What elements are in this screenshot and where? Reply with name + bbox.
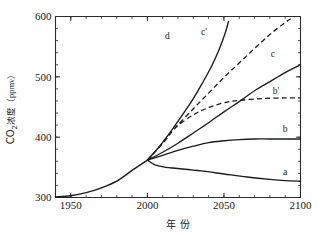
y-tick-label: 600 [35, 10, 52, 22]
y-axis-tick-labels: 300400500600 [35, 10, 52, 203]
curve-d [147, 21, 228, 160]
y-axis-title: CO2浓度（ppmv） [5, 70, 19, 145]
curve-label-c-prime: c' [201, 27, 207, 37]
y-axis-title-rest: 浓度（ppmv） [6, 70, 16, 125]
x-tick-label: 2100 [290, 199, 313, 211]
y-axis-title-group: CO2浓度（ppmv） [5, 70, 19, 145]
axis-frame-lines [56, 17, 301, 198]
curve-historical [56, 160, 148, 197]
x-axis-title-label: 年 份 [166, 218, 189, 230]
data-curves [56, 17, 301, 197]
curve-a [147, 160, 300, 181]
x-axis-tick-labels: 1950200020502100 [60, 199, 312, 211]
curve-label-c: c [271, 49, 275, 59]
y-axis-title-co: CO [5, 129, 16, 144]
y-tick-label: 300 [35, 191, 52, 203]
curve-b-prime [147, 98, 300, 160]
x-tick-label: 2000 [136, 199, 159, 211]
figure-container: 1950200020502100 300400500600 abb'cc'd 年… [0, 0, 324, 235]
curve-label-d: d [165, 31, 170, 41]
x-tick-label: 2050 [213, 199, 236, 211]
x-axis-minor-ticks [56, 17, 301, 198]
curve-label-b-prime: b' [273, 86, 280, 96]
y-tick-label: 400 [35, 131, 52, 143]
plot-frame [56, 17, 301, 198]
x-axis-title: 年 份 [166, 218, 189, 230]
y-axis-major-ticks [56, 17, 301, 198]
curve-b [147, 139, 300, 160]
y-axis-minor-ticks [56, 17, 301, 198]
curve-label-a: a [283, 167, 288, 177]
co2-concentration-line-chart: 1950200020502100 300400500600 abb'cc'd 年… [0, 0, 324, 235]
curve-c [147, 65, 300, 160]
y-tick-label: 500 [35, 71, 52, 83]
curve-label-b: b [283, 124, 288, 134]
x-tick-label: 1950 [60, 199, 83, 211]
x-axis-major-ticks [71, 17, 301, 198]
